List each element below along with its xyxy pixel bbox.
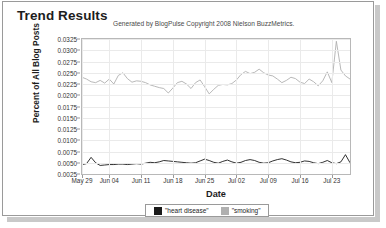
x-axis-tick-mark <box>109 175 110 178</box>
x-axis-tick-mark <box>300 175 301 178</box>
y-axis-tick-label: 0.0100 <box>57 137 77 144</box>
grid-line-horizontal <box>82 107 350 108</box>
x-axis-tick-mark <box>332 175 333 178</box>
y-axis-tick-mark <box>77 174 80 175</box>
y-axis-tick-label: 0.0075 <box>57 148 77 155</box>
grid-line-horizontal <box>82 62 350 63</box>
x-axis-tick-label: Jul 09 <box>260 177 277 184</box>
x-axis-tick-label: May 29 <box>72 177 93 184</box>
x-axis-tick-mark <box>205 175 206 178</box>
y-axis-tick-mark <box>77 106 80 107</box>
y-axis-tick-label: 0.0300 <box>57 47 77 54</box>
y-axis-tick-label: 0.0175 <box>57 103 77 110</box>
grid-line-horizontal <box>82 95 350 96</box>
y-axis-tick-mark <box>77 50 80 51</box>
plot-area <box>81 38 351 175</box>
legend-label-smoking: "smoking" <box>232 207 261 214</box>
x-axis-tick-mark <box>82 175 83 178</box>
grid-line-horizontal <box>82 163 350 164</box>
grid-line-horizontal <box>82 118 350 119</box>
trend-chart: Percent of All Blog Posts 0.00250.00500.… <box>15 28 363 212</box>
x-axis-tick-label: Jul 16 <box>292 177 309 184</box>
y-axis-tick-label: 0.0150 <box>57 114 77 121</box>
legend-swatch-smoking <box>221 207 229 215</box>
x-axis-tick-label: Jun 11 <box>132 177 151 184</box>
x-axis-tick-mark <box>173 175 174 178</box>
chart-legend: "heart disease" "smoking" <box>145 204 269 217</box>
trend-results-panel: Trend Results Generated by BlogPulse Cop… <box>2 1 374 216</box>
y-axis-tick-mark <box>77 140 80 141</box>
y-axis-tick-mark <box>77 151 80 152</box>
grid-line-horizontal <box>82 129 350 130</box>
x-axis-tick-label: Jun 18 <box>163 177 182 184</box>
grid-line-horizontal <box>82 73 350 74</box>
y-axis-tick-mark <box>77 129 80 130</box>
panel-shadow-right <box>375 5 380 220</box>
chart-attribution: Generated by BlogPulse Copyright 2008 Ni… <box>113 20 294 27</box>
y-axis-tick-mark <box>77 162 80 163</box>
legend-item-smoking[interactable]: "smoking" <box>221 207 261 215</box>
legend-swatch-heart-disease <box>154 207 162 215</box>
grid-line-horizontal <box>82 152 350 153</box>
y-axis-tick-label: 0.0325 <box>57 36 77 43</box>
y-axis-tick-label: 0.0225 <box>57 81 77 88</box>
series-line <box>82 155 350 166</box>
y-axis-tick-label: 0.0050 <box>57 159 77 166</box>
legend-item-heart-disease[interactable]: "heart disease" <box>154 207 209 215</box>
grid-line-horizontal <box>82 39 350 40</box>
series-line <box>82 41 350 94</box>
panel-shadow-bottom <box>7 217 380 222</box>
y-axis-tick-label: 0.0250 <box>57 69 77 76</box>
x-axis-tick-mark <box>268 175 269 178</box>
x-axis-tick-label: Jun 25 <box>195 177 214 184</box>
y-axis-tick-mark <box>77 95 80 96</box>
x-axis-tick-label: Jul 02 <box>228 177 245 184</box>
grid-line-horizontal <box>82 50 350 51</box>
grid-line-horizontal <box>82 174 350 175</box>
y-axis-tick-mark <box>77 84 80 85</box>
y-axis-labels: 0.00250.00500.00750.01000.01250.01500.01… <box>15 28 79 185</box>
x-axis-title: Date <box>81 189 351 199</box>
legend-label-heart-disease: "heart disease" <box>165 207 209 214</box>
x-axis-tick-mark <box>236 175 237 178</box>
y-axis-tick-mark <box>77 72 80 73</box>
y-axis-tick-label: 0.0275 <box>57 58 77 65</box>
y-axis-tick-label: 0.0200 <box>57 92 77 99</box>
y-axis-tick-label: 0.0125 <box>57 126 77 133</box>
x-axis-tick-label: Jun 04 <box>100 177 119 184</box>
grid-line-horizontal <box>82 140 350 141</box>
y-axis-tick-mark <box>77 117 80 118</box>
x-axis-tick-label: Jul 23 <box>323 177 340 184</box>
x-axis-tick-mark <box>141 175 142 178</box>
y-axis-tick-mark <box>77 39 80 40</box>
grid-line-horizontal <box>82 84 350 85</box>
screenshot-root: Trend Results Generated by BlogPulse Cop… <box>0 0 386 228</box>
y-axis-tick-mark <box>77 61 80 62</box>
